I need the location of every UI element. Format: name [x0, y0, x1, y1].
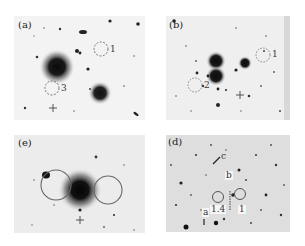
- aperture-1: [256, 48, 270, 62]
- aperture-label: 1: [110, 45, 116, 54]
- aperture-2: [188, 78, 202, 92]
- aperture-label: 2: [204, 81, 210, 90]
- target-cross-icon: [76, 216, 84, 224]
- panel-e-image: [14, 135, 145, 233]
- panel-label: (b): [169, 20, 183, 30]
- panel-label: (e): [18, 138, 32, 148]
- panel-b: (b) 1 2: [166, 16, 290, 120]
- panel-label: (d): [168, 137, 182, 147]
- panel-label: (a): [18, 20, 32, 30]
- marker-label-c: c: [221, 152, 226, 161]
- aperture-label: 1: [272, 50, 278, 59]
- panel-e: (e): [14, 135, 145, 233]
- panel-b-image: [166, 16, 290, 120]
- aperture-1-4: [213, 192, 224, 203]
- aperture-label: 1: [238, 205, 246, 214]
- panel-a: (a) 1 3: [14, 16, 145, 120]
- aperture-1: [94, 42, 108, 56]
- panel-d: (d) c b 1.4 1 a: [166, 135, 290, 232]
- marker-label-a: a: [202, 208, 209, 217]
- panel-a-image: [14, 16, 145, 120]
- target-cross-icon: [49, 104, 57, 112]
- marker-label-b: b: [225, 171, 233, 180]
- aperture-label: 3: [61, 84, 67, 93]
- target-cross-icon: [236, 91, 244, 99]
- panel-d-image: [166, 135, 290, 232]
- aperture-1: [235, 189, 246, 200]
- aperture-label: 1.4: [210, 205, 226, 214]
